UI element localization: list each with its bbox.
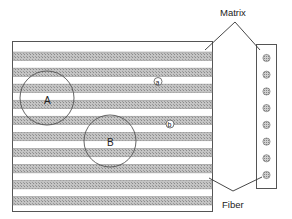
fiber-stripe xyxy=(13,116,212,125)
composite-fiber-diagram: A B a b Matrix Fiber xyxy=(0,0,292,219)
point-a-marker: a xyxy=(154,78,162,86)
fiber-label: Fiber xyxy=(222,199,244,210)
fiber-cross-section xyxy=(263,121,270,128)
fiber-stripe xyxy=(13,180,212,189)
fiber-stripe xyxy=(13,100,212,109)
fiber-cross-section xyxy=(263,105,270,112)
fiber-stripe xyxy=(13,197,212,206)
fiber-cross-section xyxy=(263,88,270,95)
region-a-label: A xyxy=(44,95,51,106)
fiber-cross-section xyxy=(263,54,270,61)
cross-section-block xyxy=(257,45,277,189)
fiber-cross-section xyxy=(263,138,270,145)
fiber-leader-lines xyxy=(209,177,262,191)
point-b-label: b xyxy=(168,121,172,128)
fiber-cross-section xyxy=(263,155,270,162)
longitudinal-view: A B a b xyxy=(13,42,213,212)
fiber-cross-section xyxy=(263,171,270,178)
matrix-leader-lines xyxy=(205,22,260,50)
point-a-label: a xyxy=(156,79,160,86)
fiber-cross-section xyxy=(263,71,270,78)
fiber-stripe xyxy=(13,164,212,173)
region-b-label: B xyxy=(107,137,114,148)
matrix-label: Matrix xyxy=(220,7,246,18)
cross-section-view xyxy=(257,45,277,189)
fiber-stripe xyxy=(13,148,212,157)
fiber-stripe xyxy=(13,52,212,61)
fiber-stripe xyxy=(13,84,212,93)
point-b-marker: b xyxy=(166,120,174,128)
fiber-stripe xyxy=(13,68,212,77)
